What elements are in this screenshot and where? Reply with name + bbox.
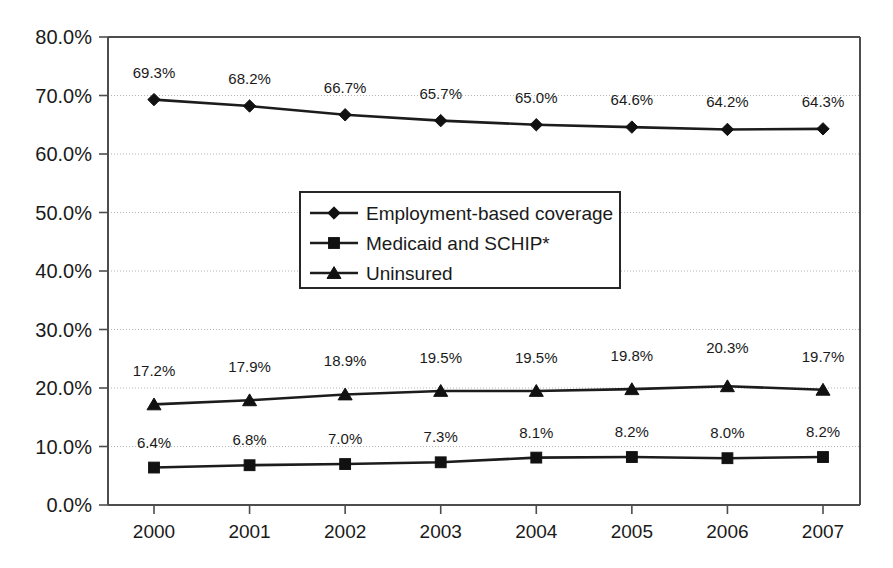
data-point-label: 64.3% <box>802 93 845 110</box>
x-axis-tick-label: 2006 <box>706 521 748 542</box>
data-point-label: 64.2% <box>706 93 749 110</box>
data-point-label: 6.8% <box>232 431 266 448</box>
square-marker-icon <box>531 452 542 463</box>
y-axis-tick-label: 10.0% <box>35 436 92 458</box>
legend-item-label: Uninsured <box>366 263 453 284</box>
y-axis-tick-label: 0.0% <box>46 494 92 516</box>
square-marker-icon <box>340 459 351 470</box>
data-point-label: 7.0% <box>328 430 362 447</box>
square-marker-icon <box>435 457 446 468</box>
data-point-label: 20.3% <box>706 339 749 356</box>
data-point-label: 17.2% <box>133 362 176 379</box>
chart-canvas: 0.0%10.0%20.0%30.0%40.0%50.0%60.0%70.0%8… <box>0 0 893 568</box>
data-point-label: 19.7% <box>802 348 845 365</box>
legend-item-label: Employment-based coverage <box>366 203 613 224</box>
y-axis-tick-label: 70.0% <box>35 85 92 107</box>
chart-legend[interactable]: Employment-based coverageMedicaid and SC… <box>300 192 620 288</box>
x-axis-tick-label: 2007 <box>802 521 844 542</box>
square-marker-icon <box>818 452 829 463</box>
square-marker-icon <box>244 460 255 471</box>
data-point-label: 18.9% <box>324 352 367 369</box>
data-point-label: 7.3% <box>424 428 458 445</box>
data-point-label: 65.7% <box>419 85 462 102</box>
data-point-label: 17.9% <box>228 358 271 375</box>
square-marker-icon <box>329 238 340 249</box>
x-axis-tick-label: 2000 <box>133 521 175 542</box>
data-point-label: 69.3% <box>133 64 176 81</box>
data-point-label: 19.5% <box>515 349 558 366</box>
square-marker-icon <box>149 462 160 473</box>
y-axis-tick-label: 60.0% <box>35 143 92 165</box>
data-point-label: 66.7% <box>324 79 367 96</box>
y-axis-tick-label: 30.0% <box>35 319 92 341</box>
y-axis-tick-label: 80.0% <box>35 26 92 48</box>
data-point-label: 19.8% <box>611 347 654 364</box>
data-point-label: 6.4% <box>137 434 171 451</box>
y-axis-tick-label: 50.0% <box>35 202 92 224</box>
data-point-label: 64.6% <box>611 91 654 108</box>
legend-item-label: Medicaid and SCHIP* <box>366 233 550 254</box>
data-point-label: 65.0% <box>515 89 558 106</box>
data-point-label: 8.2% <box>806 423 840 440</box>
x-axis-tick-label: 2004 <box>515 521 558 542</box>
data-point-label: 68.2% <box>228 70 271 87</box>
x-axis-tick-label: 2005 <box>611 521 653 542</box>
data-point-label: 19.5% <box>419 349 462 366</box>
square-marker-icon <box>626 452 637 463</box>
x-axis-tick-label: 2003 <box>420 521 462 542</box>
x-axis-tick-label: 2001 <box>228 521 270 542</box>
data-point-label: 8.1% <box>519 424 553 441</box>
y-axis-tick-label: 20.0% <box>35 377 92 399</box>
x-axis-tick-label: 2002 <box>324 521 366 542</box>
square-marker-icon <box>722 453 733 464</box>
data-point-label: 8.2% <box>615 423 649 440</box>
line-chart: 0.0%10.0%20.0%30.0%40.0%50.0%60.0%70.0%8… <box>0 0 893 568</box>
data-point-label: 8.0% <box>710 424 744 441</box>
y-axis-tick-label: 40.0% <box>35 260 92 282</box>
